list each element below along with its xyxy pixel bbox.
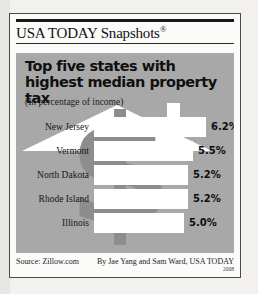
bar-row: New Jersey6.2% (16, 115, 234, 139)
bar-row-label: New Jersey (16, 115, 89, 139)
bar-row-label: Illinois (16, 211, 89, 235)
masthead-title: USA TODAY Snapshots® (16, 22, 234, 43)
infographic-page: USA TODAY Snapshots® $ Top five states w… (0, 0, 258, 294)
bar-value-label: 5.0% (189, 211, 217, 235)
year-label: 2008 (223, 266, 234, 272)
source-label: Source: Zillow.com (16, 257, 79, 266)
chart-footer: Source: Zillow.com By Jae Yang and Sam W… (16, 257, 234, 275)
bar-row-label: North Dakota (16, 163, 89, 187)
bar (94, 141, 193, 161)
chart-subtitle: (In percentage of income) (25, 97, 123, 107)
bar-row-label: Rhode Island (16, 187, 89, 211)
bar-value-label: 5.5% (198, 139, 226, 163)
bar (94, 165, 188, 185)
bar-row: Vermont5.5% (16, 139, 234, 163)
bar (94, 117, 206, 137)
bar (94, 189, 188, 209)
bar-value-label: 5.2% (193, 187, 221, 211)
bar-row: North Dakota5.2% (16, 163, 234, 187)
masthead-rule-bottom (16, 43, 234, 44)
registered-mark-icon: ® (160, 24, 167, 34)
bar-row: Illinois5.0% (16, 211, 234, 235)
bar-value-label: 6.2% (211, 115, 234, 139)
bar-rows: New Jersey6.2%Vermont5.5%North Dakota5.2… (16, 115, 234, 235)
chart-panel: $ Top five states with highest median pr… (16, 53, 234, 253)
masthead-brand: USA TODAY Snapshots (16, 25, 160, 41)
bar-row: Rhode Island5.2% (16, 187, 234, 211)
bar-row-label: Vermont (16, 139, 89, 163)
masthead: USA TODAY Snapshots® (16, 19, 234, 44)
infographic-frame: USA TODAY Snapshots® $ Top five states w… (9, 13, 241, 278)
byline-label: By Jae Yang and Sam Ward, USA TODAY (97, 257, 234, 266)
bar (94, 213, 184, 233)
bar-value-label: 5.2% (193, 163, 221, 187)
